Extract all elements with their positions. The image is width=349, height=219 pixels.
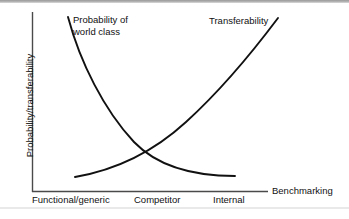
- series-label-transferability: Transferability: [209, 15, 268, 26]
- series-label-probability-of-world-class: Probability of world class: [73, 14, 153, 37]
- x-tick-label-competitor: Competitor: [134, 194, 180, 205]
- x-tick-label-functional-generic: Functional/generic: [32, 194, 110, 205]
- benchmarking-chart-figure: Probability/transferability Probability …: [0, 0, 349, 219]
- series-transferability-curve: [75, 18, 278, 177]
- series-label-probability-line-1: Probability of: [73, 14, 128, 25]
- series-probability-of-world-class-curve: [68, 17, 235, 176]
- x-tick-label-internal: Internal: [213, 194, 245, 205]
- series-label-probability-line-2: world class: [73, 26, 120, 37]
- y-axis-title: Probability/transferability: [24, 31, 35, 181]
- x-axis-title: Benchmarking: [272, 185, 333, 196]
